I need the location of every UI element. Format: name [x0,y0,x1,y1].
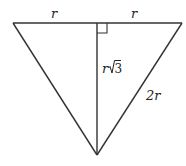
label-altitude: r 3 [102,61,122,77]
right-side [97,23,182,155]
label-top-left-r: r [51,6,58,21]
label-altitude-radicand: 3 [115,62,123,76]
label-altitude-r: r [102,61,109,76]
label-top-right-r: r [131,6,138,21]
label-right-side-2r: 2r [145,88,161,103]
right-angle-marker [97,23,107,33]
triangle-diagram: r r r 3 2r [0,0,186,166]
left-side [13,23,97,155]
